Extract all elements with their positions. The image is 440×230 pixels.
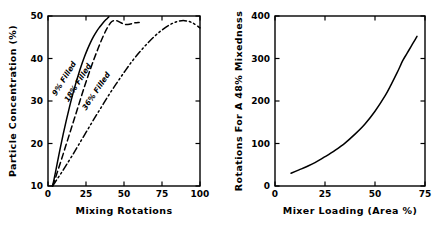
y-axis-title: Rotations For A 48% Mixedness [233, 11, 244, 191]
y-tick-label: 0 [264, 181, 270, 191]
x-tick-label: 25 [319, 189, 332, 199]
left-plot-svg: 025507510010203040509% Filled18% Filled3… [0, 0, 220, 230]
plot-frame [275, 16, 425, 186]
x-tick-label: 75 [419, 189, 432, 199]
series-curve-18-filled [53, 21, 140, 186]
x-axis-title: Mixing Rotations [76, 205, 173, 216]
x-tick-label: 0 [272, 189, 278, 199]
chart-panel-left: 025507510010203040509% Filled18% Filled3… [0, 0, 220, 230]
figure-canvas: 025507510010203040509% Filled18% Filled3… [0, 0, 440, 230]
y-tick-label: 50 [30, 11, 43, 21]
y-tick-label: 40 [30, 54, 43, 64]
y-axis-title: Particle Concentration (%) [7, 25, 18, 177]
y-tick-label: 20 [30, 139, 43, 149]
y-tick-label: 300 [251, 54, 270, 64]
x-tick-label: 75 [156, 189, 169, 199]
y-tick-label: 200 [251, 96, 270, 106]
y-tick-label: 100 [251, 139, 270, 149]
y-tick-label: 30 [30, 96, 43, 106]
x-tick-label: 25 [80, 189, 93, 199]
series-curve-rotations-curve [291, 36, 417, 173]
x-tick-label: 0 [45, 189, 51, 199]
x-axis-title: Mixer Loading (Area %) [283, 205, 417, 216]
y-tick-label: 10 [30, 181, 43, 191]
x-tick-label: 50 [369, 189, 382, 199]
x-tick-label: 100 [191, 189, 210, 199]
y-tick-label: 400 [251, 11, 270, 21]
x-tick-label: 50 [118, 189, 131, 199]
chart-panel-right: 02550750100200300400Mixer Loading (Area … [220, 0, 440, 230]
series-curve-36-filled [53, 21, 200, 186]
right-plot-svg: 02550750100200300400Mixer Loading (Area … [220, 0, 440, 230]
